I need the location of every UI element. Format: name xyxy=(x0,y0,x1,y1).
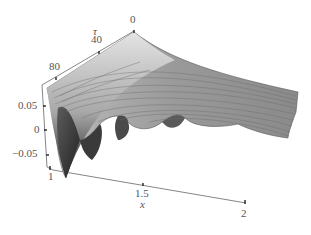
tau-axis-label: τ xyxy=(93,26,97,37)
x-axis-label: x xyxy=(140,199,145,210)
x-tick-2: 2 xyxy=(241,208,247,219)
tau-tick-80: 80 xyxy=(49,61,60,72)
z-tick-0: 0 xyxy=(34,124,40,135)
surface-plot xyxy=(0,0,311,235)
z-tick-neg0.05: −0.05 xyxy=(12,148,37,159)
x-tick-1: 1 xyxy=(48,171,54,182)
tau-tick-0: 0 xyxy=(130,14,136,25)
z-tick-0.05: 0.05 xyxy=(18,100,37,111)
